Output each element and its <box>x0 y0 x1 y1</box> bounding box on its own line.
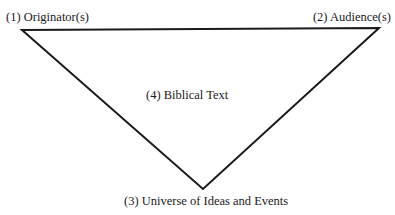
biblical-text-label: (4) Biblical Text <box>146 89 228 102</box>
universe-label: (3) Universe of Ideas and Events <box>124 195 288 208</box>
originator-label: (1) Originator(s) <box>6 11 89 24</box>
audience-label: (2) Audience(s) <box>313 11 391 24</box>
triangle-diagram <box>0 0 395 215</box>
inverted-triangle <box>22 28 379 189</box>
